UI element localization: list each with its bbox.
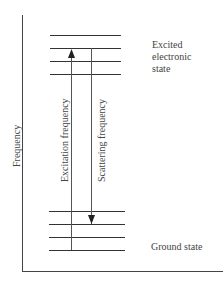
excited-level-2 (50, 48, 121, 49)
ground-level-3 (49, 237, 125, 238)
x-axis (22, 271, 223, 272)
arrow-down-icon (88, 215, 95, 224)
excited-level-3 (50, 61, 121, 62)
scattering-arrow (91, 48, 92, 224)
ground-level-2 (49, 224, 125, 225)
arrow-up-icon (68, 49, 75, 58)
ground-level-4 (49, 250, 125, 251)
excitation-arrow (71, 52, 72, 250)
y-axis-label: Frequency (11, 125, 22, 167)
ground-level-1 (49, 211, 125, 212)
ground-state-label: Ground state (151, 241, 202, 253)
excited-level-1 (50, 35, 121, 36)
excited-level-4 (50, 74, 121, 75)
excitation-frequency-label: Excitation frequency (59, 98, 70, 182)
y-axis (22, 15, 23, 272)
scattering-frequency-label: Scattering frequency (96, 99, 107, 182)
excited-state-label: Excited electronic state (152, 39, 191, 75)
